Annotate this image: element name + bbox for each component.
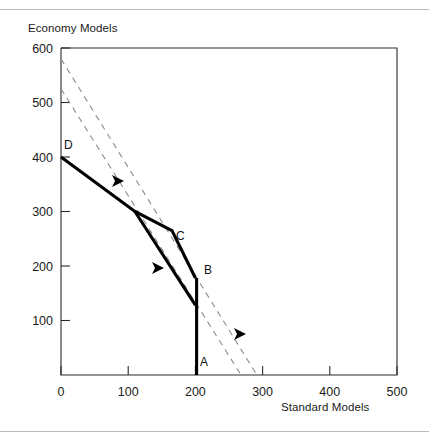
y-tick-label-200: 200 xyxy=(32,260,53,274)
y-axis-ticks xyxy=(61,48,70,321)
plot-frame xyxy=(61,48,397,375)
point-label-d: D xyxy=(64,138,73,152)
page-root: Economy Models Standard Models xyxy=(0,0,429,443)
ppf-chart-figure: Economy Models Standard Models xyxy=(0,9,429,431)
y-tick-label-300: 300 xyxy=(32,205,53,219)
x-tick-labels: 0 100 200 300 400 500 xyxy=(58,385,408,399)
x-tick-label-400: 400 xyxy=(319,385,340,399)
x-tick-label-200: 200 xyxy=(185,385,206,399)
y-tick-label-600: 600 xyxy=(32,42,53,56)
point-label-a: A xyxy=(200,355,208,369)
point-label-b: B xyxy=(204,263,212,277)
arrowhead-icon-lower-right xyxy=(234,328,246,340)
isoprofit-upper-line xyxy=(61,59,257,375)
y-tick-label-500: 500 xyxy=(32,96,53,110)
arrowhead-icon-middle xyxy=(152,262,164,274)
y-tick-labels: 600 500 400 300 200 100 xyxy=(32,42,53,329)
x-axis-ticks xyxy=(61,366,397,375)
chart-plot-svg: 600 500 400 300 200 100 0 100 200 300 40… xyxy=(0,9,429,431)
x-tick-label-100: 100 xyxy=(118,385,139,399)
outer-frontier-curve xyxy=(61,157,195,278)
x-tick-label-300: 300 xyxy=(252,385,273,399)
frontier-curves xyxy=(61,157,197,375)
arrow-markers xyxy=(112,175,246,340)
x-tick-label-500: 500 xyxy=(387,385,408,399)
isoprofit-lower-line xyxy=(61,89,241,375)
x-tick-label-0: 0 xyxy=(58,385,65,399)
y-tick-label-100: 100 xyxy=(32,314,53,328)
bottom-divider-rule xyxy=(0,431,429,432)
plot-border xyxy=(61,48,397,375)
point-labels: A B C D xyxy=(64,138,212,369)
isoprofit-lines xyxy=(61,59,257,375)
point-label-c: C xyxy=(176,229,185,243)
y-tick-label-400: 400 xyxy=(32,151,53,165)
